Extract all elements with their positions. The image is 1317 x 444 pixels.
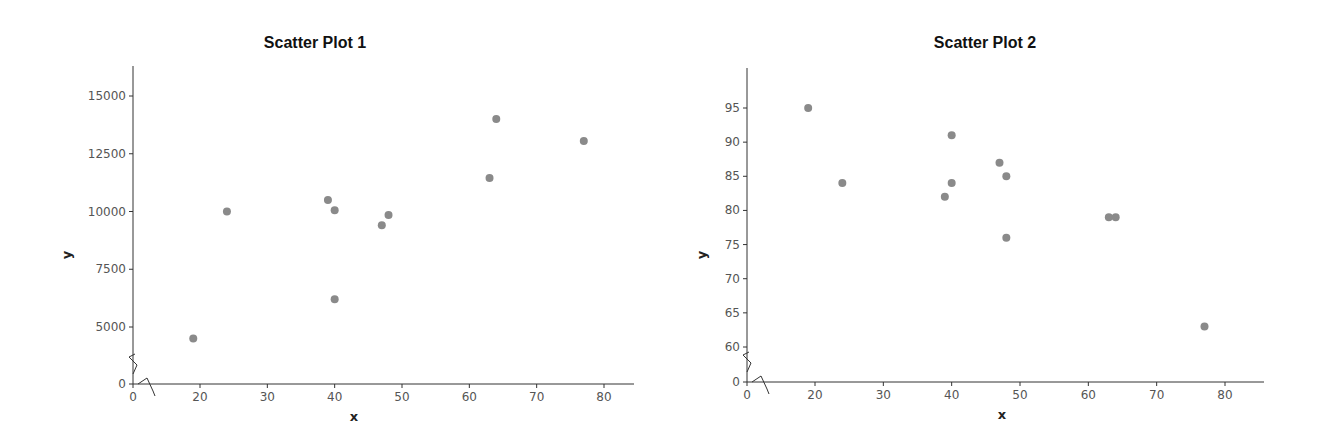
axes: 02030405060708006065707580859095xy [694, 68, 1264, 422]
x-tick-label: 70 [1149, 388, 1164, 402]
x-axis-break-icon [752, 376, 769, 394]
y-tick-label: 85 [725, 169, 740, 183]
data-point[interactable] [996, 159, 1004, 167]
y-tick-label: 90 [725, 135, 740, 149]
x-tick-label: 20 [807, 388, 822, 402]
y-tick-label: 0 [732, 375, 740, 389]
x-tick-label: 50 [1012, 388, 1027, 402]
data-point[interactable] [1002, 234, 1010, 242]
scatter-plot-2: Scatter Plot 2 0203040506070800606570758… [0, 0, 1317, 444]
data-point[interactable] [948, 179, 956, 187]
data-point[interactable] [941, 193, 949, 201]
data-point[interactable] [838, 179, 846, 187]
y-tick-label: 65 [725, 306, 740, 320]
y-tick-label: 75 [725, 238, 740, 252]
y-tick-label: 95 [725, 101, 740, 115]
y-tick-label: 70 [725, 272, 740, 286]
y-tick-label: 60 [725, 340, 740, 354]
x-tick-label: 60 [1081, 388, 1096, 402]
data-point[interactable] [1105, 213, 1113, 221]
y-tick-label: 80 [725, 203, 740, 217]
data-point[interactable] [804, 104, 812, 112]
data-point[interactable] [1201, 323, 1209, 331]
data-points [804, 104, 1208, 331]
data-point[interactable] [948, 131, 956, 139]
x-tick-label: 0 [743, 388, 751, 402]
data-point[interactable] [1002, 172, 1010, 180]
data-point[interactable] [1112, 213, 1120, 221]
y-axis-label: y [694, 250, 709, 259]
x-tick-label: 30 [876, 388, 891, 402]
plot-area: 02030405060708006065707580859095xy [0, 0, 1317, 444]
x-tick-label: 80 [1217, 388, 1232, 402]
x-axis-label: x [998, 407, 1007, 422]
x-tick-label: 40 [944, 388, 959, 402]
